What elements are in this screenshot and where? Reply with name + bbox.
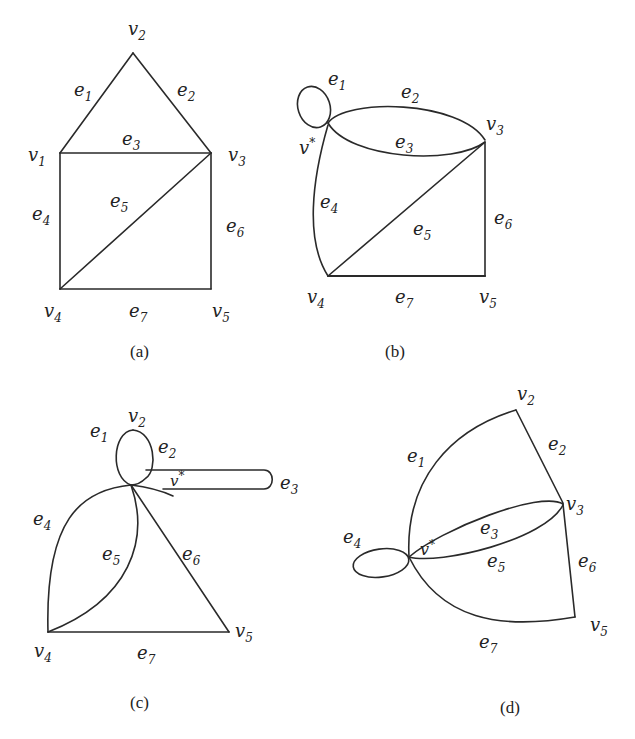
edge-label-c-e1: e1	[90, 420, 108, 445]
vertex-label-a-v1: v1	[28, 144, 46, 169]
edge-label-b-e5: e5	[413, 218, 431, 243]
caption-a: (a)	[130, 342, 149, 361]
vertex-label-b-v5: v5	[479, 286, 497, 311]
vertex-label-a-v3: v3	[228, 144, 246, 169]
panel-a: v2 v1 v3 v4 v5 e1 e2 e3 e4 e5 e6 e7 (a)	[28, 18, 246, 361]
edge-d-e2	[516, 410, 563, 503]
edge-label-a-e1: e1	[74, 79, 92, 104]
edge-label-c-e3: e3	[280, 472, 299, 497]
vertex-label-a-v4: v4	[44, 300, 62, 325]
edge-c-e2	[131, 430, 153, 485]
panel-d: v2 v3 v* v5 e1 e2 e3 e4 e5 e6 e7 (d)	[343, 383, 608, 717]
edge-label-d-e1: e1	[407, 445, 425, 470]
edge-d-e1	[409, 410, 516, 557]
edge-label-c-e5: e5	[102, 543, 120, 568]
edge-label-c-e2: e2	[158, 436, 176, 461]
vertex-label-b-v3: v3	[486, 113, 504, 138]
edge-label-d-e4: e4	[343, 526, 361, 551]
vertex-label-d-vstar: v*	[420, 538, 435, 559]
edge-label-b-e1: e1	[328, 68, 346, 93]
edge-label-c-e6: e6	[182, 543, 201, 568]
edge-label-a-e6: e6	[226, 215, 245, 240]
edge-label-d-e7: e7	[479, 631, 498, 656]
vertex-label-b-vstar: v*	[299, 136, 315, 158]
edge-label-b-e2: e2	[401, 81, 419, 106]
edge-label-d-e5: e5	[487, 550, 505, 575]
edge-label-c-e4: e4	[33, 508, 51, 533]
vertex-label-c-v2: v2	[128, 405, 146, 430]
edge-label-a-e4: e4	[32, 203, 50, 228]
edge-label-d-e6: e6	[578, 550, 597, 575]
edge-label-a-e3: e3	[122, 128, 141, 153]
edge-label-a-e2: e2	[177, 79, 195, 104]
edge-c-e1	[116, 430, 133, 485]
edge-label-b-e7: e7	[395, 286, 414, 311]
edge-a-e2	[133, 53, 211, 153]
vertex-label-a-v5: v5	[212, 300, 230, 325]
edge-c-e6	[131, 485, 229, 632]
panel-b: v* v3 v4 v5 e1 e2 e3 e4 e5 e6 e7 (b)	[292, 68, 512, 361]
edge-b-e5	[328, 143, 484, 276]
vertex-label-d-v3: v3	[566, 493, 584, 518]
vertex-label-c-v4: v4	[34, 640, 52, 665]
caption-c: (c)	[130, 693, 149, 712]
edge-label-b-e6: e6	[494, 207, 513, 232]
vertex-label-c-v5: v5	[235, 620, 253, 645]
caption-b: (b)	[385, 342, 405, 361]
caption-d: (d)	[500, 698, 520, 717]
edge-c-e5	[48, 485, 138, 632]
edge-b-e2	[328, 107, 485, 140]
panel-c: v2 v* v4 v5 e1 e2 e3 e4 e5 e6 e7 (c)	[33, 405, 299, 712]
edge-label-a-e7: e7	[129, 300, 148, 325]
vertex-label-d-v2: v2	[517, 383, 535, 408]
vertex-label-b-v4: v4	[307, 286, 325, 311]
edge-label-d-e2: e2	[548, 433, 566, 458]
edge-a-e5	[60, 153, 211, 289]
edge-label-c-e7: e7	[137, 642, 156, 667]
edge-label-d-e3: e3	[480, 517, 499, 542]
edge-d-e6	[563, 504, 575, 617]
vertex-label-a-v2: v2	[128, 18, 146, 43]
graph-figure: v2 v1 v3 v4 v5 e1 e2 e3 e4 e5 e6 e7 (a) …	[0, 0, 635, 739]
edge-label-a-e5: e5	[110, 190, 128, 215]
edge-label-b-e4: e4	[320, 191, 338, 216]
vertex-label-c-vstar: v*	[170, 469, 184, 490]
edge-label-b-e3: e3	[395, 131, 414, 156]
edge-c-e3	[146, 470, 272, 489]
vertex-label-d-v5: v5	[590, 614, 608, 639]
